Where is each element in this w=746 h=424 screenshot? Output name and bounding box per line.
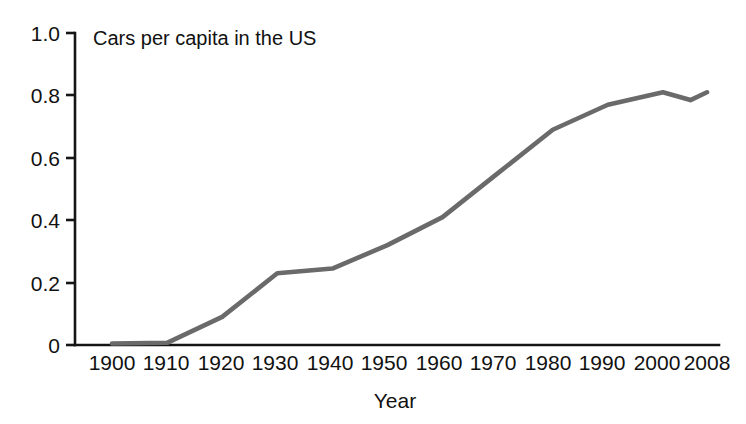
- y-tick-label-0.6: 0.6: [31, 147, 60, 170]
- x-tick-label-2008: 2008: [684, 351, 731, 374]
- x-tick-label-1940: 1940: [307, 351, 354, 374]
- chart-title: Cars per capita in the US: [93, 27, 316, 49]
- x-tick-label-2000: 2000: [634, 351, 681, 374]
- x-tick-label-1910: 1910: [143, 351, 190, 374]
- y-tick-label-0.4: 0.4: [31, 209, 61, 232]
- x-tick-label-1960: 1960: [416, 351, 463, 374]
- y-tick-label-0.8: 0.8: [31, 84, 60, 107]
- y-tick-label-1.0: 1.0: [31, 22, 60, 45]
- chart-container: 1.0 0.8 0.6 0.4 0.2 0 1900 1910 1920 193…: [0, 0, 746, 424]
- line-chart: 1.0 0.8 0.6 0.4 0.2 0 1900 1910 1920 193…: [0, 0, 746, 424]
- x-tick-label-1920: 1920: [198, 351, 245, 374]
- x-tick-label-1950: 1950: [361, 351, 408, 374]
- x-tick-label-1930: 1930: [252, 351, 299, 374]
- x-tick-label-1980: 1980: [525, 351, 572, 374]
- x-axis-title: Year: [374, 389, 416, 412]
- y-tick-label-0.2: 0.2: [31, 272, 60, 295]
- y-tick-label-0: 0: [48, 334, 60, 357]
- x-tick-label-1900: 1900: [89, 351, 136, 374]
- x-tick-label-1990: 1990: [579, 351, 626, 374]
- x-tick-label-1970: 1970: [470, 351, 517, 374]
